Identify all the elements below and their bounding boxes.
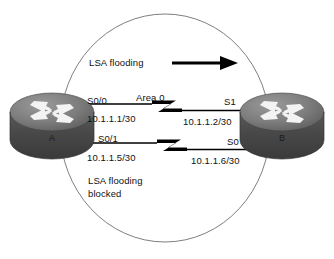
network-diagram: LSA flooding Area 0 S0/0 10.1.1.1/30 S1 … [0,0,334,259]
interface-label-s0-0: S0/0 [87,95,107,107]
diagram-graphics [0,0,334,259]
address-label-s1: 10.1.1.2/30 [183,116,232,128]
address-label-s0-1: 10.1.1.5/30 [87,152,136,164]
interface-label-s1: S1 [224,96,236,108]
router-a-icon[interactable] [10,93,94,159]
lsa-flooding-arrow-icon [172,56,238,70]
lsa-flooding-label: LSA flooding [89,57,144,69]
router-a-name-label: A [49,133,55,143]
interface-label-s0-1: S0/1 [98,133,118,145]
router-b-icon[interactable] [240,93,324,159]
interface-label-s0: S0 [227,136,239,148]
address-label-s0-0: 10.1.1.1/30 [87,113,136,125]
router-b-name-label: B [279,133,285,143]
lsa-flooding-blocked-label: LSA flooding blocked [88,174,143,200]
address-label-s0: 10.1.1.6/30 [191,155,240,167]
area-0-label: Area 0 [136,92,165,104]
